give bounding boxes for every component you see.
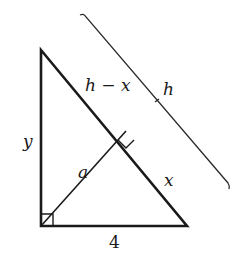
diagram-canvas xyxy=(0,0,232,257)
label-base-4: 4 xyxy=(109,234,120,251)
label-h-minus-x: h − x xyxy=(85,77,131,94)
label-h: h xyxy=(163,81,174,98)
label-a: a xyxy=(78,164,88,181)
label-x: x xyxy=(164,172,174,189)
triangle-diagram: h − x h y a x 4 xyxy=(0,0,232,257)
label-y: y xyxy=(23,133,33,150)
h-dimension-bracket xyxy=(80,14,229,189)
